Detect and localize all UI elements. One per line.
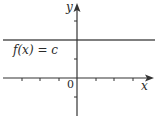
y-axis-label: y xyxy=(66,0,73,14)
x-axis-label: x xyxy=(141,79,148,93)
graph-canvas xyxy=(0,0,158,139)
origin-label: 0 xyxy=(67,78,74,91)
function-label: f(x) = c xyxy=(13,43,58,57)
